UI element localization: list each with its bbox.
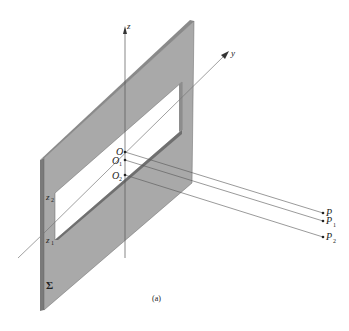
point-p2-label: P bbox=[325, 231, 332, 242]
screen-sigma-label: Σ bbox=[46, 279, 53, 291]
slit-lower-edge-label: z bbox=[45, 235, 50, 245]
figure-caption: (a) bbox=[152, 294, 161, 303]
origin-o2-dot bbox=[124, 174, 127, 177]
point-p1-label: P bbox=[325, 215, 332, 226]
slit-upper-edge-label: z bbox=[45, 192, 50, 202]
origin-o-dot bbox=[124, 151, 127, 154]
origin-o1-sub: 1 bbox=[119, 161, 122, 167]
point-p1-sub: 1 bbox=[333, 222, 336, 228]
point-p2-sub: 2 bbox=[333, 238, 336, 244]
z-axis-label: z bbox=[126, 21, 131, 31]
point-p2-dot bbox=[322, 236, 325, 239]
origin-o1-dot bbox=[124, 159, 127, 162]
slit-inner-edge-right bbox=[179, 82, 182, 132]
point-p1-dot bbox=[322, 220, 325, 223]
y-axis-label: y bbox=[230, 48, 235, 58]
origin-o2-sub: 2 bbox=[119, 176, 122, 182]
diagram-canvas: z y O O 1 O 2 P P 1 P 2 z 2 z 1 Σ (a) bbox=[0, 0, 349, 331]
point-p-dot bbox=[322, 212, 325, 215]
slit-upper-edge-sub: 2 bbox=[51, 197, 54, 203]
slit-lower-edge-sub: 1 bbox=[51, 240, 54, 246]
slit-diffraction-diagram: z y O O 1 O 2 P P 1 P 2 z 2 z 1 Σ (a) bbox=[0, 0, 349, 331]
screen-left-edge bbox=[40, 158, 44, 311]
